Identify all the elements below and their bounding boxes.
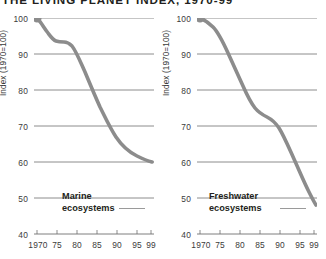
- y-tick-label: 80: [6, 86, 28, 96]
- y-tick-label: 70: [169, 122, 191, 132]
- x-tick-label: 85: [252, 240, 268, 250]
- y-tick-label: 50: [169, 194, 191, 204]
- x-tick-label: 99: [143, 240, 159, 250]
- y-tick-label: 40: [169, 230, 191, 240]
- series-label-marine: Marine ecosystems: [62, 191, 115, 214]
- x-tick-label: 90: [109, 240, 125, 250]
- series-label-line2: ecosystems: [209, 203, 262, 213]
- series-label-freshwater: Freshwater ecosystems: [209, 191, 262, 214]
- x-tick-label: 1970: [188, 240, 214, 250]
- series-label-line1: Freshwater: [209, 191, 258, 201]
- x-tick-label: 90: [272, 240, 288, 250]
- y-tick-label: 50: [6, 194, 28, 204]
- x-tick-label: 85: [89, 240, 105, 250]
- x-tick-label: 1970: [25, 240, 51, 250]
- y-tick-label: 100: [169, 14, 191, 24]
- x-axis-ticks: [37, 230, 151, 234]
- living-planet-index-figure: THE LIVING PLANET INDEX, 1970-99 Index (…: [0, 0, 326, 259]
- y-tick-label: 40: [6, 230, 28, 240]
- y-tick-label: 60: [6, 158, 28, 168]
- x-tick-label: 75: [212, 240, 228, 250]
- x-tick-label: 75: [49, 240, 65, 250]
- y-tick-label: 70: [6, 122, 28, 132]
- y-tick-label: 60: [169, 158, 191, 168]
- y-tick-label: 80: [169, 86, 191, 96]
- freshwater-data-line: [200, 18, 316, 205]
- y-tick-label: 100: [6, 14, 28, 24]
- y-tick-label: 90: [169, 50, 191, 60]
- y-tick-label: 90: [6, 50, 28, 60]
- x-tick-label: 80: [232, 240, 248, 250]
- series-label-line2: ecosystems: [62, 203, 115, 213]
- chart-panel-freshwater: Index (1970=100) 100 90 80 70 60 50 40: [163, 0, 326, 259]
- freshwater-start-marker: [197, 18, 205, 23]
- x-tick-label: 99: [306, 240, 322, 250]
- chart-panel-marine: Index (1970=100) 100 90 80 70 60 50 40: [0, 0, 163, 259]
- legend-line-freshwater: [280, 208, 306, 209]
- series-label-line1: Marine: [62, 191, 92, 201]
- x-axis-ticks: [200, 230, 314, 234]
- legend-line-marine: [119, 208, 145, 209]
- x-tick-label: 80: [69, 240, 85, 250]
